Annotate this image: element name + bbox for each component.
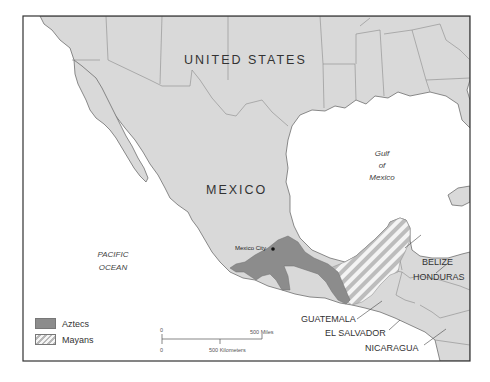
label-gulf-of-mexico: Gulf of Mexico xyxy=(362,148,402,184)
label-belize: BELIZE xyxy=(422,257,453,267)
scale-miles: 500 Miles xyxy=(250,329,274,335)
label-mexico-city: Mexico City xyxy=(235,245,266,251)
label-pacific-ocean: PACIFIC OCEAN xyxy=(88,248,138,274)
scale-bottom-zero: 0 xyxy=(160,347,163,353)
aztec-swatch xyxy=(35,318,56,329)
maya-swatch xyxy=(35,334,56,345)
label-nicaragua: NICARAGUA xyxy=(365,343,419,353)
legend-aztecs: Aztecs xyxy=(35,318,89,329)
pacific-line-2: OCEAN xyxy=(88,261,138,274)
label-el-salvador: EL SALVADOR xyxy=(325,328,386,338)
scale-kilometers: 500 Kilometers xyxy=(209,347,246,353)
label-mexico: MEXICO xyxy=(206,183,267,197)
legend-aztecs-label: Aztecs xyxy=(62,319,89,329)
pacific-line-1: PACIFIC xyxy=(88,248,138,261)
gulf-line-2: of xyxy=(362,160,402,172)
scale-top-zero: 0 xyxy=(160,327,163,333)
legend-mayans: Mayans xyxy=(35,334,94,345)
mexico-city-marker xyxy=(271,247,275,251)
gulf-line-3: Mexico xyxy=(362,172,402,184)
label-united-states: UNITED STATES xyxy=(184,53,307,67)
label-honduras: HONDURAS xyxy=(413,272,465,282)
gulf-line-1: Gulf xyxy=(362,148,402,160)
legend-mayans-label: Mayans xyxy=(62,335,94,345)
label-guatemala: GUATEMALA xyxy=(301,314,356,324)
